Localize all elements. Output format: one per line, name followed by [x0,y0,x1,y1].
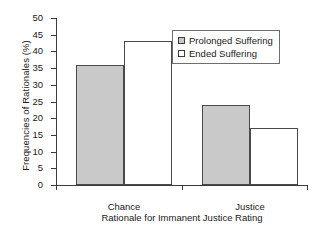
y-axis-tick-label: 10 [3,146,43,157]
legend-label: Ended Suffering [189,48,257,59]
legend-item-ended-suffering: Ended Suffering [178,47,273,60]
y-axis-tick: 15 [51,135,56,136]
x-axis-tick [56,185,57,190]
legend-item-prolonged-suffering: Prolonged Suffering [178,34,273,47]
y-axis-tick-label: 0 [3,179,43,190]
y-axis-tick: 30 [51,85,56,86]
y-axis-tick-label: 35 [3,62,43,73]
x-axis-category-label-chance: Chance [84,201,164,212]
legend-swatch-icon [178,50,185,57]
y-axis-tick: 25 [51,102,56,103]
y-axis-tick: 45 [51,35,56,36]
y-axis-tick-label: 5 [3,162,43,173]
bar-chance-ended-suffering [124,41,172,185]
x-axis-category-label-justice: Justice [210,201,290,212]
chart-legend: Prolonged Suffering Ended Suffering [172,30,280,64]
y-axis-tick-label: 20 [3,112,43,123]
legend-label: Prolonged Suffering [189,35,273,46]
y-axis-tick-label: 15 [3,129,43,140]
legend-swatch-icon [178,37,185,44]
x-axis-tick [182,185,183,190]
y-axis-tick-label: 30 [3,79,43,90]
y-axis-tick-label: 45 [3,29,43,40]
y-axis-tick: 50 [51,18,56,19]
bar-chart-figure: Frequencies of Rationales (%) 50 45 40 3… [0,0,316,236]
y-axis-tick-label: 25 [3,96,43,107]
y-axis-line [56,18,57,185]
x-axis-tick [307,185,308,190]
y-axis-tick: 40 [51,51,56,52]
bar-chance-prolonged-suffering [76,65,124,185]
y-axis-tick: 10 [51,152,56,153]
y-axis-tick: 5 [51,168,56,169]
y-axis-tick-label: 40 [3,45,43,56]
x-axis-title: Rationale for Immanent Justice Rating [56,212,308,223]
y-axis-tick: 35 [51,68,56,69]
bar-justice-prolonged-suffering [202,105,250,185]
bar-justice-ended-suffering [250,128,298,185]
y-axis-tick-label: 50 [3,12,43,23]
y-axis-tick: 20 [51,118,56,119]
